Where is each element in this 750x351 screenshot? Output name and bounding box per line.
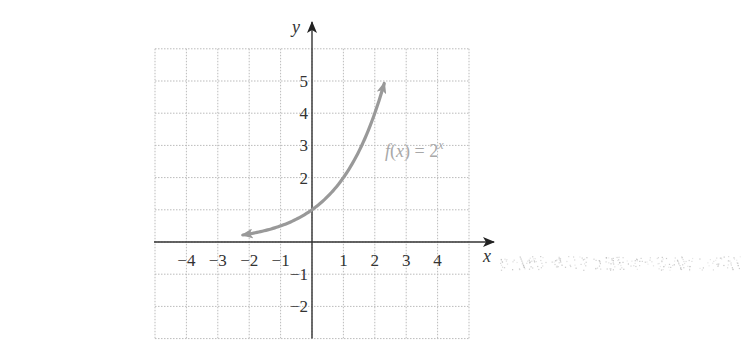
svg-text:2: 2 xyxy=(371,251,380,270)
axes xyxy=(154,22,494,339)
scan-noise xyxy=(500,256,741,271)
svg-text:−2: −2 xyxy=(290,297,308,316)
y-axis-label: y xyxy=(290,17,300,37)
svg-text:−4: −4 xyxy=(177,251,196,270)
svg-text:4: 4 xyxy=(433,251,442,270)
svg-text:3: 3 xyxy=(300,136,309,155)
svg-text:−2: −2 xyxy=(240,251,258,270)
function-label: f(x) = 2x xyxy=(385,138,444,162)
svg-text:2: 2 xyxy=(300,169,309,188)
curve xyxy=(243,83,384,235)
svg-text:4: 4 xyxy=(300,104,309,123)
exponential-function-graph: −4−3−2−112345432−1−2 x y f(x) = 2x xyxy=(0,0,750,351)
x-axis-label: x xyxy=(482,246,491,266)
svg-text:−1: −1 xyxy=(272,251,290,270)
svg-text:−3: −3 xyxy=(209,251,227,270)
svg-text:1: 1 xyxy=(339,251,348,270)
svg-text:5: 5 xyxy=(300,72,309,91)
svg-text:−1: −1 xyxy=(290,265,308,284)
svg-text:3: 3 xyxy=(402,251,411,270)
tick-labels: −4−3−2−112345432−1−2 xyxy=(177,72,442,316)
